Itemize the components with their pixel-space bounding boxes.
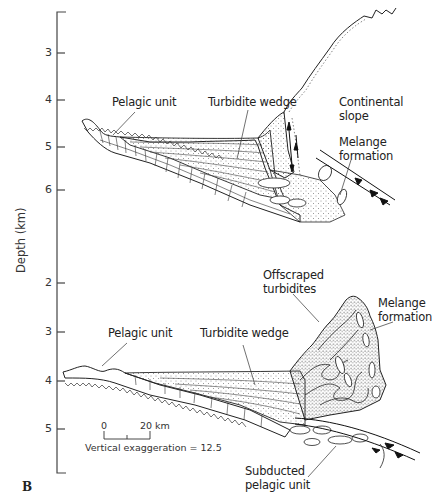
- accretionary-prism-diagram: [0, 0, 442, 499]
- lower-melange-label-line1: Melange: [378, 297, 426, 310]
- tick-upper-3: 3: [45, 46, 52, 59]
- offscraped-label-line2: turbidites: [263, 283, 316, 296]
- vertical-exaggeration: Vertical exaggeration = 12.5: [85, 442, 222, 453]
- depth-axis: [57, 12, 66, 473]
- upper-melange-label-line1: Melange: [339, 136, 387, 149]
- scale-bar: [104, 431, 150, 439]
- subducted-label-line2: pelagic unit: [245, 479, 310, 492]
- continental-slope-label-line2: slope: [339, 110, 369, 123]
- lower-pelagic-label: Pelagic unit: [108, 327, 172, 340]
- scale-end: 20 km: [140, 420, 170, 431]
- upper-turbidite-label: Turbidite wedge: [208, 96, 297, 109]
- lower-turbidite-label: Turbidite wedge: [200, 327, 289, 340]
- tick-lower-2: 2: [45, 276, 52, 289]
- scale-start: 0: [101, 420, 107, 431]
- panel-letter: B: [22, 480, 32, 494]
- tick-lower-5: 5: [45, 422, 52, 435]
- upper-pelagic-label: Pelagic unit: [112, 96, 176, 109]
- lower-melange-label-line2: formation: [378, 311, 432, 324]
- subducted-label-line1: Subducted: [245, 465, 305, 478]
- tick-upper-5: 5: [45, 140, 52, 153]
- continental-slope-label-line1: Continental: [339, 96, 403, 109]
- lower-turbidite-wedge: [125, 371, 305, 425]
- tick-upper-4: 4: [45, 93, 52, 106]
- offscraped-label-line1: Offscraped: [263, 269, 324, 282]
- tick-upper-6: 6: [45, 183, 52, 196]
- tick-lower-3: 3: [45, 325, 52, 338]
- upper-melange-label-line2: formation: [339, 150, 393, 163]
- tick-lower-4: 4: [45, 374, 52, 387]
- y-axis-label: Depth (km): [14, 207, 28, 273]
